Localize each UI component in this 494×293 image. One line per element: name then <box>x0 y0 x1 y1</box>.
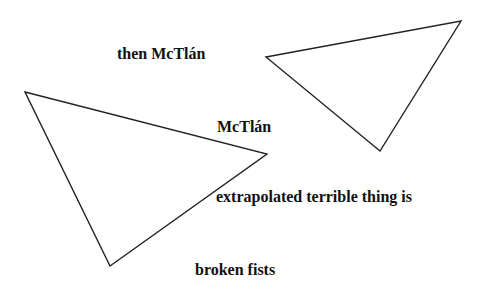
label-broken-fists: broken fists <box>195 262 275 278</box>
diagram-canvas: then McTlán McTlán extrapolated terrible… <box>0 0 494 293</box>
label-extrapolated-terrible-thing: extrapolated terrible thing is <box>216 189 412 205</box>
right-triangle <box>266 21 461 151</box>
shapes-layer <box>0 0 494 293</box>
label-then-mctlan: then McTlán <box>117 46 205 62</box>
label-mctlan: McTlán <box>217 119 271 135</box>
